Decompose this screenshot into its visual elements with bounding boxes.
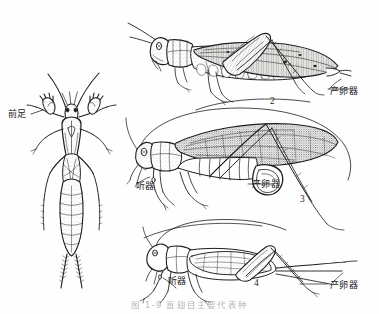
figure-illustration-plate — [0, 0, 379, 314]
figure-page: 前足 产卵器 听器 产卵器 听器 产卵器 2 3 4 图 1-9 直翅目主要代表… — [0, 0, 379, 314]
label-foreleg: 前足 — [8, 110, 27, 120]
label-tympanum-katydid: 听器 — [136, 182, 155, 192]
figure-caption: 图 1-9 直翅目主要代表种 — [0, 298, 379, 310]
figure-numeral-cricket: 4 — [254, 278, 259, 288]
cricket-tympanum-mark — [159, 275, 162, 279]
label-tympanum-cricket: 听器 — [168, 277, 187, 287]
label-ovipositor-cricket: 产卵器 — [330, 281, 358, 291]
label-ovipositor-locust: 产卵器 — [330, 87, 358, 97]
figure-numeral-locust: 2 — [270, 96, 275, 106]
figure-numeral-katydid: 3 — [300, 194, 305, 204]
label-ovipositor-katydid: 产卵器 — [252, 180, 280, 190]
